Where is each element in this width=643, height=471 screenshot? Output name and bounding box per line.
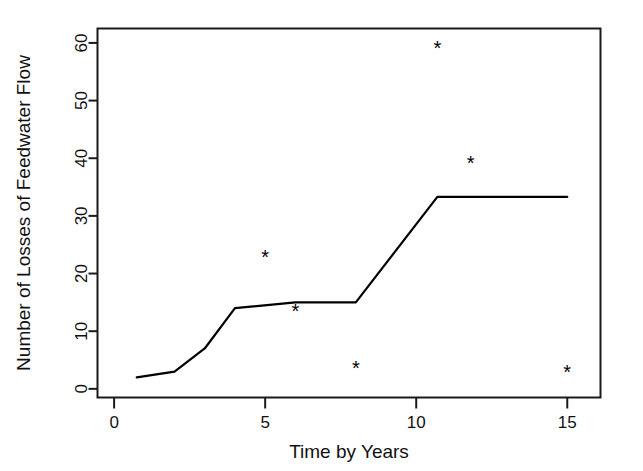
x-axis-title: Time by Years [289,441,409,462]
data-point-marker: * [261,246,269,268]
data-point-marker: * [433,37,441,59]
y-tick-label: 0 [72,384,91,393]
y-tick-label: 40 [72,149,91,168]
x-tick-label: 15 [558,413,577,432]
y-tick-label: 10 [72,322,91,341]
x-tick-label: 0 [109,413,118,432]
y-tick-label: 30 [72,206,91,225]
y-tick-label: 50 [72,91,91,110]
data-point-marker: * [352,357,360,379]
data-point-marker: * [467,152,475,174]
chart-figure: 0102030405060 051015 ****** Time by Year… [0,0,643,471]
y-tick-label: 20 [72,264,91,283]
data-point-marker: * [291,300,299,322]
x-tick-label: 10 [407,413,426,432]
x-tick-label: 5 [260,413,269,432]
y-tick-label: 60 [72,33,91,52]
y-axis-title: Number of Losses of Feedwater Flow [13,55,34,371]
line-chart: 0102030405060 051015 ****** Time by Year… [0,0,643,471]
data-point-marker: * [563,361,571,383]
chart-background [0,0,643,471]
